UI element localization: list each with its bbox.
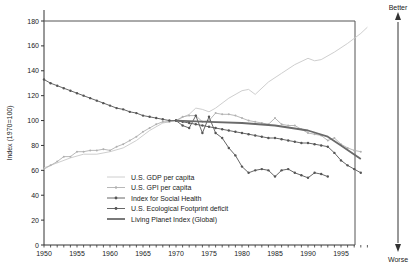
- data-point: [294, 141, 296, 143]
- y-tick-label: 40: [31, 192, 39, 199]
- data-point: [300, 142, 302, 144]
- data-point: [300, 174, 302, 176]
- better-label: Better: [389, 4, 408, 11]
- y-tick-label: 80: [31, 142, 39, 149]
- legend-marker: [115, 197, 118, 200]
- data-point: [287, 168, 289, 170]
- data-point: [234, 131, 236, 133]
- data-point: [353, 168, 355, 170]
- y-tick-label: 0: [35, 242, 39, 249]
- data-point: [109, 149, 111, 151]
- data-point: [43, 78, 45, 80]
- data-point: [122, 143, 124, 145]
- data-point: [247, 133, 249, 135]
- x-tick-label: 1980: [234, 250, 250, 257]
- data-point: [294, 172, 296, 174]
- data-point: [280, 169, 282, 171]
- data-point: [241, 165, 243, 167]
- y-axis-label: Index (1970=100): [6, 105, 14, 160]
- legend: U.S. GDP per capitaU.S. GPI per capitaIn…: [107, 174, 228, 224]
- data-point: [83, 151, 85, 153]
- legend-label: U.S. Ecological Footprint deficit: [131, 205, 228, 213]
- data-point: [82, 94, 84, 96]
- y-tick-label: 140: [27, 67, 39, 74]
- data-point: [274, 175, 276, 177]
- data-point: [346, 164, 348, 166]
- chart-container: 0204060801001201401601801950195519601965…: [0, 0, 414, 273]
- data-point: [149, 127, 151, 129]
- arrow-down-icon: [395, 244, 401, 252]
- data-point: [353, 149, 355, 151]
- arrow-up-icon: [395, 12, 401, 20]
- data-point: [274, 117, 276, 119]
- x-tick-label: 1965: [135, 250, 151, 257]
- data-point: [261, 136, 263, 138]
- data-point: [181, 124, 183, 126]
- data-point: [241, 117, 243, 119]
- x-tick-label: 1955: [69, 250, 85, 257]
- series-u-s-ecological-footprint-deficit: [43, 78, 362, 174]
- data-point: [168, 119, 170, 121]
- y-tick-label: 60: [31, 167, 39, 174]
- data-point: [320, 173, 322, 175]
- data-point: [76, 92, 78, 94]
- legend-label: U.S. GPI per capita: [131, 184, 191, 192]
- series-group: [43, 27, 368, 179]
- legend-label: U.S. GDP per capita: [131, 174, 194, 182]
- data-point: [313, 172, 315, 174]
- data-point: [89, 149, 91, 151]
- data-point: [208, 116, 210, 118]
- data-point: [287, 125, 289, 127]
- y-tick-label: 120: [27, 92, 39, 99]
- x-tick-label: 1985: [267, 250, 283, 257]
- data-point: [115, 107, 117, 109]
- data-point: [333, 152, 335, 154]
- data-point: [195, 114, 197, 116]
- data-point: [234, 154, 236, 156]
- data-point: [221, 137, 223, 139]
- series-u-s-gdp-per-capita: [44, 27, 367, 168]
- data-point: [155, 117, 157, 119]
- data-point: [182, 116, 184, 118]
- x-tick-label: 1950: [36, 250, 52, 257]
- data-point: [63, 156, 65, 158]
- data-point: [221, 113, 223, 115]
- better-worse-scale: Better Worse: [388, 4, 408, 263]
- data-point: [254, 169, 256, 171]
- x-tick-label: 1970: [168, 250, 184, 257]
- line-chart: 0204060801001201401601801950195519601965…: [0, 0, 414, 273]
- data-point: [294, 125, 296, 127]
- data-point: [221, 128, 223, 130]
- data-point: [247, 172, 249, 174]
- data-point: [307, 142, 309, 144]
- data-point: [142, 114, 144, 116]
- data-point: [228, 113, 230, 115]
- data-point: [360, 151, 362, 153]
- data-point: [201, 124, 203, 126]
- data-point: [116, 146, 118, 148]
- data-point: [188, 115, 190, 117]
- data-point: [333, 137, 335, 139]
- data-point: [135, 136, 137, 138]
- data-point: [320, 144, 322, 146]
- data-point: [96, 99, 98, 101]
- data-point: [56, 85, 58, 87]
- data-point: [102, 148, 104, 150]
- data-point: [135, 112, 137, 114]
- series-line: [176, 121, 361, 160]
- data-point: [43, 168, 45, 170]
- worse-label: Worse: [388, 256, 408, 263]
- data-point: [148, 116, 150, 118]
- data-point: [280, 138, 282, 140]
- x-tick-label: 1960: [102, 250, 118, 257]
- data-point: [49, 82, 51, 84]
- data-point: [248, 120, 250, 122]
- data-point: [267, 169, 269, 171]
- data-point: [267, 137, 269, 139]
- data-point: [241, 132, 243, 134]
- y-tick-label: 180: [27, 18, 39, 25]
- data-point: [129, 111, 131, 113]
- data-point: [228, 129, 230, 131]
- data-point: [69, 89, 71, 91]
- data-point: [162, 121, 164, 123]
